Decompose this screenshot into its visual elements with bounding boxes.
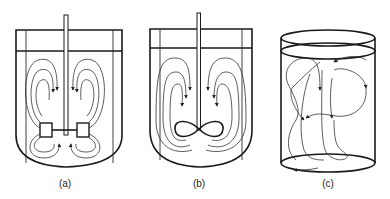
flow-loops-left xyxy=(156,58,192,152)
panel-label-c: (c) xyxy=(322,178,334,189)
flow-loops-upper-left xyxy=(25,59,57,128)
flow-loops-upper-right xyxy=(73,59,105,128)
agitator-shaft xyxy=(64,15,68,135)
flow-loops-right xyxy=(206,58,246,152)
swirl-flow-paths xyxy=(286,56,366,170)
panel-label-a: (a) xyxy=(59,178,71,189)
panel-label-b: (b) xyxy=(193,178,205,189)
impeller-blade-right xyxy=(77,123,89,137)
mixing-flow-patterns-diagram: (a) (b) xyxy=(0,0,390,199)
agitator-shaft xyxy=(197,13,201,130)
panel-a-radial-impeller-tank: (a) xyxy=(16,15,122,189)
panel-b-axial-impeller-tank: (b) xyxy=(150,13,252,189)
impeller-blade-left xyxy=(40,123,52,137)
cylinder-bottom xyxy=(281,154,375,172)
panel-c-unbaffled-cylinder: (c) xyxy=(281,30,375,189)
